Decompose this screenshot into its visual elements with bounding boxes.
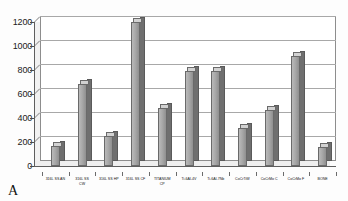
bar-front-face <box>131 22 140 166</box>
bar <box>78 78 87 166</box>
bar-series <box>34 16 336 167</box>
y-axis-line <box>34 22 35 167</box>
bar-top-face <box>53 142 62 147</box>
bar-top-face <box>80 80 89 85</box>
bar-side-face <box>300 51 305 161</box>
bar-top-face <box>293 52 302 57</box>
bar-front-face <box>291 56 300 166</box>
bar-side-face <box>167 103 172 161</box>
x-axis-tick <box>202 172 203 176</box>
bar-side-face <box>140 17 145 161</box>
bar <box>211 65 220 166</box>
bar-front-face <box>238 128 247 166</box>
x-axis-tick <box>229 172 230 176</box>
bar-top-face <box>267 106 276 111</box>
x-axis-tick <box>149 172 150 176</box>
bar-front-face <box>104 136 113 166</box>
y-axis-tick-label: 400 <box>2 114 32 123</box>
bar <box>318 141 327 166</box>
x-axis-tick <box>42 172 43 176</box>
bar-top-face <box>160 104 169 109</box>
bar-front-face <box>78 84 87 166</box>
bar-front-face <box>265 110 274 166</box>
bar-front-face <box>211 71 220 166</box>
bar-side-face <box>220 66 225 161</box>
bar <box>104 130 113 166</box>
x-axis-tick <box>176 172 177 176</box>
bar-side-face <box>274 105 279 161</box>
y-axis-tick-label: 200 <box>2 138 32 147</box>
x-axis-labels: 316L SS AN316L SS CW316L SS HP316L SS CF… <box>34 177 336 199</box>
panel-label: A <box>8 183 18 199</box>
y-axis-tick-label: 1200 <box>2 18 32 27</box>
bar-front-face <box>185 71 194 166</box>
x-axis-tick <box>95 172 96 176</box>
plot-area <box>34 16 336 167</box>
bar-chart-figure: 020040060080010001200 316L SS AN316L SS … <box>0 0 348 201</box>
bar-front-face <box>51 146 60 166</box>
y-axis-tick-label: 800 <box>2 66 32 75</box>
x-axis-line <box>34 166 336 167</box>
x-axis-tick <box>69 172 70 176</box>
bar-top-face <box>133 18 142 23</box>
y-axis-tick-label: 600 <box>2 90 32 99</box>
y-axis-tick-label: 0 <box>2 162 32 171</box>
bar-top-face <box>187 67 196 72</box>
bar <box>131 16 140 166</box>
x-axis-tick <box>122 172 123 176</box>
x-axis-tick-label: BONE <box>307 177 338 182</box>
x-axis-tick <box>309 172 310 176</box>
bar <box>265 104 274 166</box>
bar-top-face <box>106 132 115 137</box>
bar-top-face <box>240 124 249 129</box>
bar-top-face <box>213 67 222 72</box>
x-axis-tick <box>336 172 337 176</box>
y-axis-tick-label: 1000 <box>2 42 32 51</box>
bar <box>291 50 300 166</box>
bar-front-face <box>318 147 327 166</box>
bar <box>238 122 247 166</box>
x-axis-tick <box>256 172 257 176</box>
bar-front-face <box>158 108 167 166</box>
bar-side-face <box>194 66 199 161</box>
y-axis-labels: 020040060080010001200 <box>0 16 32 167</box>
x-axis-tick <box>283 172 284 176</box>
bar <box>185 65 194 166</box>
bar-top-face <box>320 143 329 148</box>
bar-side-face <box>87 79 92 161</box>
bar <box>158 102 167 166</box>
bar <box>51 140 60 166</box>
